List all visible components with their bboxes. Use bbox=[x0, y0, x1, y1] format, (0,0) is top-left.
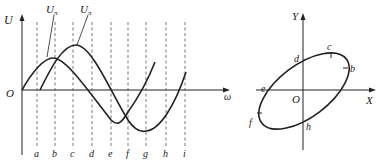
tick-label-h: h bbox=[163, 148, 168, 159]
y-axis-arrow-icon bbox=[301, 13, 306, 20]
waveform-curve-1 bbox=[22, 58, 155, 123]
tick-label-i: i bbox=[183, 148, 186, 159]
point-label-c: c bbox=[327, 41, 332, 52]
tick-label-g: g bbox=[143, 148, 148, 159]
lissajous-diagram: U ω O Uπ Uπ a b c d e f g h i Y X bbox=[0, 0, 380, 163]
curve-2-leader bbox=[77, 15, 88, 45]
x-axis-arrow-icon bbox=[369, 88, 376, 93]
tick-labels: a b c d e f g h i bbox=[34, 148, 186, 159]
point-label-e: e bbox=[261, 83, 266, 94]
tick-label-d: d bbox=[89, 148, 95, 159]
tick-label-c: c bbox=[70, 148, 75, 159]
curve-1-label: Uπ bbox=[46, 3, 58, 17]
y-axis-arrow-icon bbox=[20, 14, 25, 21]
point-label-f: f bbox=[249, 117, 253, 128]
tick-label-f: f bbox=[126, 148, 130, 159]
right-lissajous-chart: Y X O c b d e f h bbox=[246, 10, 376, 150]
dashed-guides bbox=[37, 22, 185, 146]
y-axis-label: U bbox=[4, 13, 14, 27]
tick-label-b: b bbox=[52, 148, 57, 159]
x-axis-label: X bbox=[365, 94, 374, 106]
tick-label-a: a bbox=[34, 148, 39, 159]
x-axis-label: ω bbox=[224, 91, 231, 102]
tick-label-e: e bbox=[108, 148, 113, 159]
point-label-h: h bbox=[306, 121, 311, 132]
y-axis-label: Y bbox=[292, 10, 300, 22]
origin-label: O bbox=[6, 87, 14, 99]
left-waveform-chart: U ω O Uπ Uπ a b c d e f g h i bbox=[4, 3, 231, 159]
curve-2-label: Uπ bbox=[80, 3, 92, 17]
origin-label: O bbox=[292, 93, 300, 105]
waveform-curve-2 bbox=[40, 45, 186, 131]
point-label-b: b bbox=[350, 63, 355, 74]
curve-1-leader bbox=[47, 15, 54, 57]
